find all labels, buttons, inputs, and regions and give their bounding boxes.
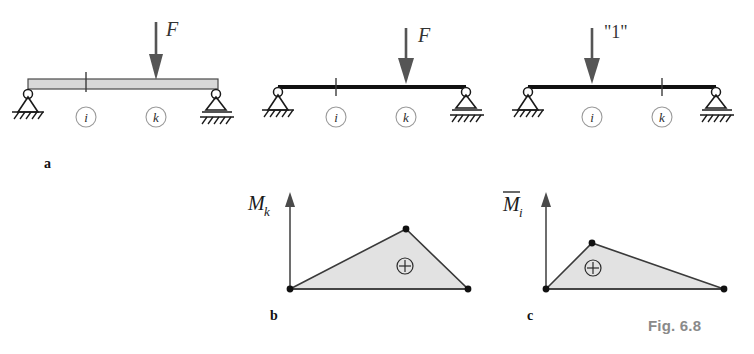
part-label-c: c [527, 308, 533, 323]
load-label-F-left: F [165, 18, 179, 40]
panel-c-moment-diagram-mi: M i c [502, 192, 727, 323]
moment-vertex-start-mk [287, 286, 294, 293]
moment-vertex-end-mi [721, 286, 728, 293]
panel-b-moment-diagram-mk: M k b [247, 192, 471, 323]
beam-body-left [28, 79, 218, 89]
moment-area-mi [546, 243, 724, 289]
panel-a-right-beam: "1" [512, 22, 734, 127]
load-label-F-middle: F [417, 24, 431, 46]
support-pin-left-a [12, 90, 44, 120]
node-label-i-left: i [84, 110, 88, 125]
node-marker-k-right: k [652, 107, 672, 127]
support-roller-right-a [200, 90, 234, 125]
part-label-a: a [44, 156, 51, 171]
figure-canvas: F [0, 0, 754, 354]
moment-vertex-peak-mk [403, 226, 410, 233]
support-roller-right-middle [450, 88, 484, 123]
node-marker-i-right: i [582, 107, 602, 127]
node-label-i-right: i [590, 110, 594, 125]
part-label-b: b [270, 308, 278, 323]
node-marker-i-middle: i [326, 107, 346, 127]
load-arrow-F-left [149, 22, 163, 80]
panel-a-left-beam: F [12, 18, 234, 171]
load-label-unit-right: "1" [604, 22, 628, 42]
load-arrow-unit-right [584, 28, 600, 84]
sign-marker-positive-mi [585, 260, 601, 276]
node-label-k-middle: k [403, 110, 409, 125]
node-marker-i-left: i [76, 107, 96, 127]
sign-marker-positive-mk [397, 258, 413, 274]
support-pin-left-right [512, 88, 544, 118]
node-marker-k-left: k [146, 107, 166, 127]
panel-a-middle-beam: F [262, 24, 484, 127]
load-arrow-F-middle [398, 28, 414, 84]
node-marker-k-middle: k [396, 107, 416, 127]
axis-label-mi-subscript: i [519, 205, 523, 220]
axis-label-mk-subscript: k [264, 204, 270, 219]
figure-caption: Fig. 6.8 [648, 317, 701, 334]
moment-area-mk [290, 229, 468, 289]
node-label-k-left: k [153, 110, 159, 125]
node-label-i-middle: i [334, 110, 338, 125]
axis-vertical-mk [285, 192, 295, 289]
moment-vertex-end-mk [465, 286, 472, 293]
axis-vertical-mi [541, 192, 551, 289]
node-label-k-right: k [659, 110, 665, 125]
support-roller-right-right [700, 88, 734, 123]
moment-vertex-peak-mi [589, 240, 596, 247]
support-pin-left-middle [262, 88, 294, 118]
moment-vertex-start-mi [543, 286, 550, 293]
figure-6-8: F [0, 0, 754, 354]
